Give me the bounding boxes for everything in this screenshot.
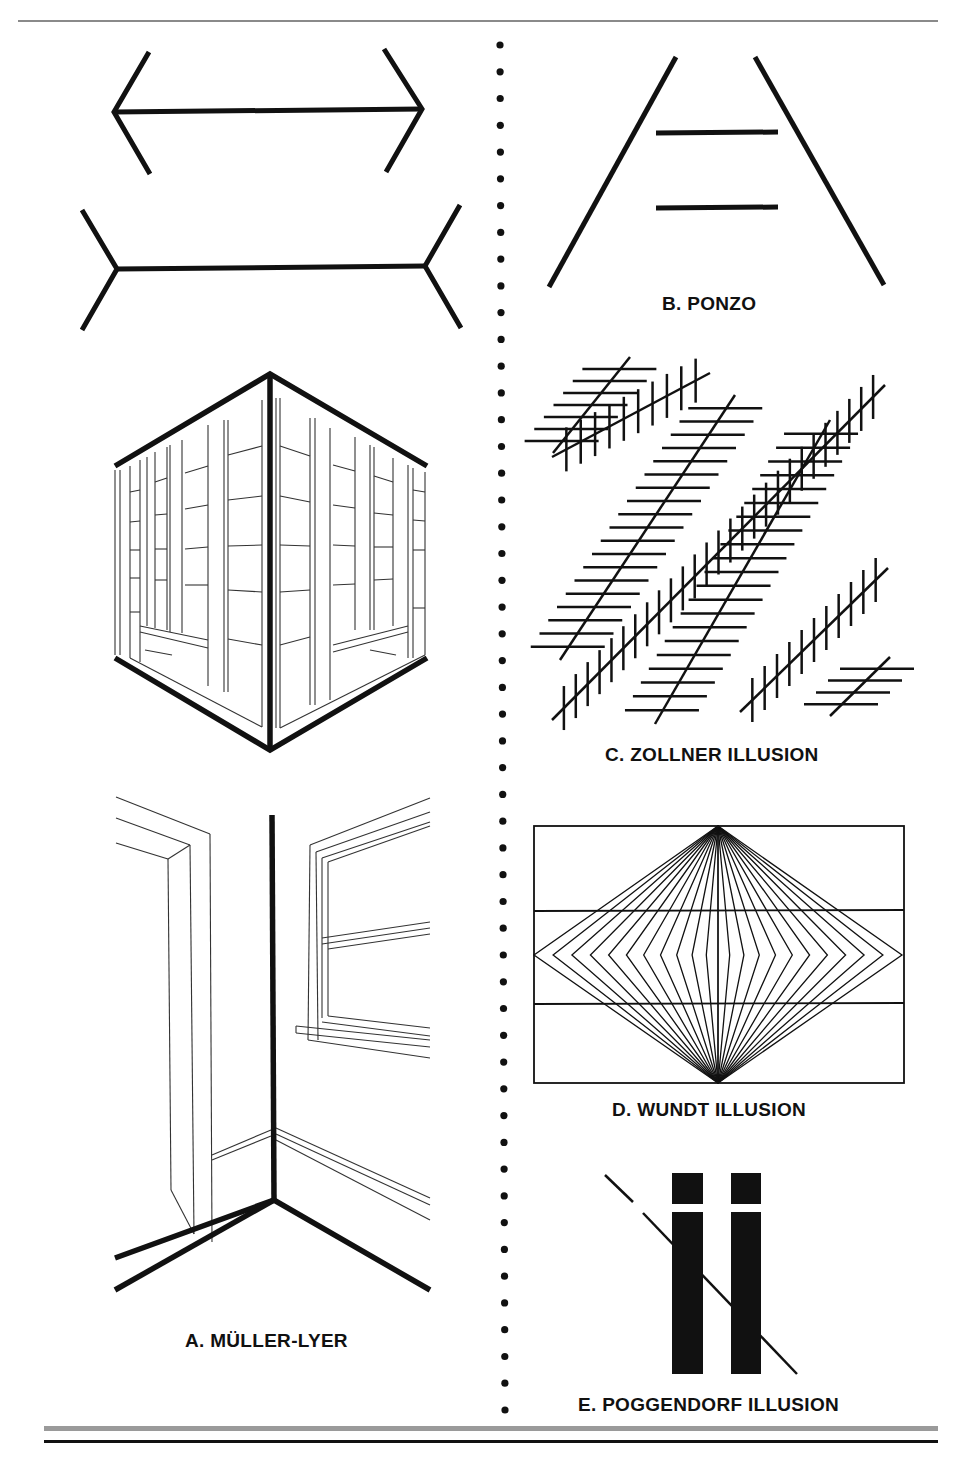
muller-lyer-arrows	[82, 49, 461, 330]
caption-muller-lyer: A. MÜLLER-LYER	[185, 1330, 348, 1352]
bottom-rule-gray	[44, 1426, 938, 1431]
dotted-divider	[496, 41, 508, 1413]
caption-zollner: C. ZOLLNER ILLUSION	[605, 744, 819, 766]
wundt-figure	[534, 826, 904, 1083]
poggendorf-figure	[605, 1173, 797, 1374]
room-corner-drawing	[115, 797, 430, 1290]
zollner-figure	[525, 357, 914, 730]
building-corner-drawing	[115, 374, 427, 750]
caption-poggendorf: E. POGGENDORF ILLUSION	[578, 1394, 839, 1416]
bottom-rule-black	[44, 1440, 938, 1443]
ponzo-figure	[549, 57, 884, 287]
caption-wundt: D. WUNDT ILLUSION	[612, 1099, 806, 1121]
caption-ponzo: B. PONZO	[662, 293, 756, 315]
illustration-canvas	[0, 0, 956, 1475]
